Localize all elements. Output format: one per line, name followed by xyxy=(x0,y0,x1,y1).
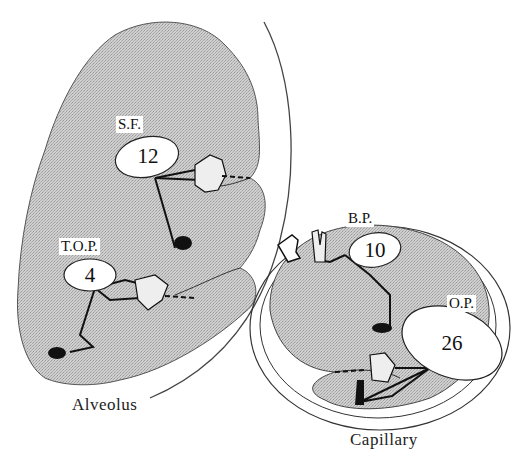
op-value: 26 xyxy=(432,333,472,354)
capillary-caption: Capillary xyxy=(350,430,418,450)
bp-value: 10 xyxy=(357,240,393,261)
sf-foot-icon xyxy=(174,236,192,250)
sf-value: 12 xyxy=(128,146,168,167)
top-foot-icon xyxy=(48,347,66,359)
sf-label: S.F. xyxy=(116,116,143,133)
top-value: 4 xyxy=(77,265,103,286)
diagram-canvas xyxy=(0,0,519,462)
bp-push-arrow-icon xyxy=(278,235,300,262)
bp-label: B.P. xyxy=(346,210,374,227)
bp-foot-icon xyxy=(372,323,392,333)
alveolus-shape xyxy=(17,22,265,385)
alveolus-caption: Alveolus xyxy=(72,395,137,415)
op-label: O.P. xyxy=(447,295,476,312)
top-label: T.O.P. xyxy=(59,238,100,255)
bp-hand-icon xyxy=(312,230,326,262)
